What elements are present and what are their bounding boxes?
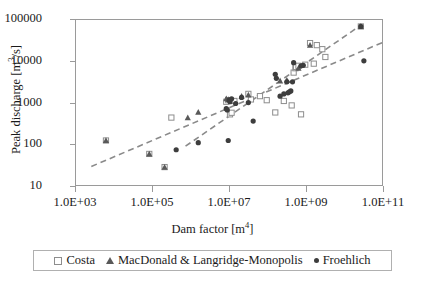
data-point — [301, 63, 306, 68]
data-point — [225, 107, 230, 112]
trendline-steep-fit — [186, 25, 361, 146]
data-point — [229, 96, 234, 101]
x-axis-title-tail: ] — [249, 222, 253, 236]
data-point — [281, 91, 286, 96]
data-point — [229, 110, 234, 115]
data-point — [281, 98, 286, 103]
filled-triangle-icon — [106, 257, 114, 264]
x-axis-tick-label: 1.0E+09 — [266, 196, 346, 209]
data-point — [264, 98, 269, 103]
legend-entry[interactable]: Froehlich — [314, 253, 371, 268]
legend-entry[interactable]: Costa — [54, 253, 94, 268]
data-point — [273, 110, 278, 115]
y-axis-tick-label: 100 — [0, 137, 42, 150]
data-point — [323, 54, 328, 59]
x-axis-title: Dam factor [m4] — [0, 222, 425, 237]
data-point — [233, 101, 238, 106]
data-point — [246, 100, 251, 105]
legend-entry[interactable]: MacDonald & Langridge-Monopolis — [106, 253, 303, 268]
data-point — [298, 112, 303, 117]
data-point — [289, 103, 294, 108]
legend-label: Froehlich — [323, 253, 371, 268]
data-point — [185, 114, 191, 120]
data-point — [314, 43, 319, 48]
x-axis-title-base: Dam factor [m — [172, 222, 246, 236]
data-point — [251, 118, 256, 123]
open-square-icon — [54, 257, 62, 265]
filled-circle-icon — [314, 258, 319, 263]
y-axis-tick-label: 1000 — [0, 96, 42, 109]
data-point — [239, 95, 244, 100]
x-axis-tick-label: 1.0E+05 — [112, 196, 192, 209]
data-point — [169, 115, 174, 120]
chart-figure: Peak discharge [m3/s] Dam factor [m4] 10… — [0, 0, 425, 287]
data-point — [284, 79, 289, 84]
plot-canvas — [76, 20, 384, 187]
data-point — [226, 138, 231, 143]
data-point — [257, 94, 262, 99]
legend-label: Costa — [66, 253, 94, 268]
data-point — [274, 76, 279, 81]
data-point — [311, 61, 316, 66]
data-point — [196, 140, 201, 145]
data-point — [174, 147, 179, 152]
data-point — [291, 60, 296, 65]
y-axis-tick-label: 10 — [0, 179, 42, 192]
x-axis-tick-label: 1.0E+03 — [35, 196, 115, 209]
y-axis-tick-label: 100000 — [0, 12, 42, 25]
data-point — [320, 47, 325, 52]
legend-label: MacDonald & Langridge-Monopolis — [118, 253, 303, 268]
data-point — [288, 88, 293, 93]
chart-legend: CostaMacDonald & Langridge-MonopolisFroe… — [33, 250, 392, 271]
y-axis-tick-label: 10000 — [0, 54, 42, 67]
plot-area — [75, 19, 383, 186]
x-axis-tick-label: 1.0E+11 — [343, 196, 423, 209]
x-axis-tick-label: 1.0E+07 — [189, 196, 269, 209]
data-point — [290, 79, 295, 84]
data-point — [358, 24, 363, 29]
data-point — [361, 58, 366, 63]
data-point — [195, 109, 201, 115]
